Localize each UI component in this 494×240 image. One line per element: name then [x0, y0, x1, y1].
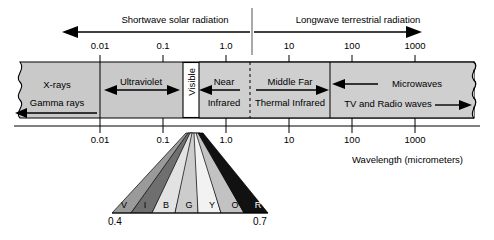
band-sublabel-gamma-rays: Gamma rays [30, 97, 84, 108]
band-sublabel-tv-radio: TV and Radio waves [344, 98, 432, 109]
band-label-visible: Visible [186, 68, 197, 96]
tick-label-bottom-0: 0.01 [91, 134, 110, 145]
fan-letter-v: V [121, 200, 127, 210]
fan-end-label: 0.7 [253, 216, 267, 227]
fan-letter-b: B [163, 200, 169, 210]
band-label-near: Near [214, 76, 235, 87]
fan-letter-i: I [144, 200, 147, 210]
fan-letter-o: O [231, 200, 238, 210]
band-label-microwaves: Microwaves [392, 78, 442, 89]
fan-letter-y: Y [209, 200, 215, 210]
tick-label-bottom-3: 10 [284, 134, 295, 145]
band-sublabel-infrared: Infrared [208, 97, 241, 108]
tick-label-bottom-1: 0.1 [156, 134, 169, 145]
axis-caption: Wavelength (micrometers) [352, 154, 463, 165]
band-label-ultraviolet: Ultraviolet [120, 76, 162, 87]
fan-start-label: 0.4 [108, 216, 122, 227]
band-label-middle-far: Middle Far [268, 76, 313, 87]
electromagnetic-spectrum-figure: Shortwave solar radiation Longwave terre… [0, 0, 494, 240]
band-label-x-rays: X-rays [43, 79, 70, 90]
tick-label-bottom-5: 1000 [404, 134, 425, 145]
spectrum-bar [0, 0, 494, 240]
tick-label-bottom-2: 1.0 [219, 134, 232, 145]
fan-letter-g: G [185, 200, 192, 210]
tick-label-bottom-4: 100 [344, 134, 360, 145]
fan-letter-r: R [255, 200, 262, 210]
band-sublabel-thermal-infrared: Thermal Infrared [255, 97, 325, 108]
